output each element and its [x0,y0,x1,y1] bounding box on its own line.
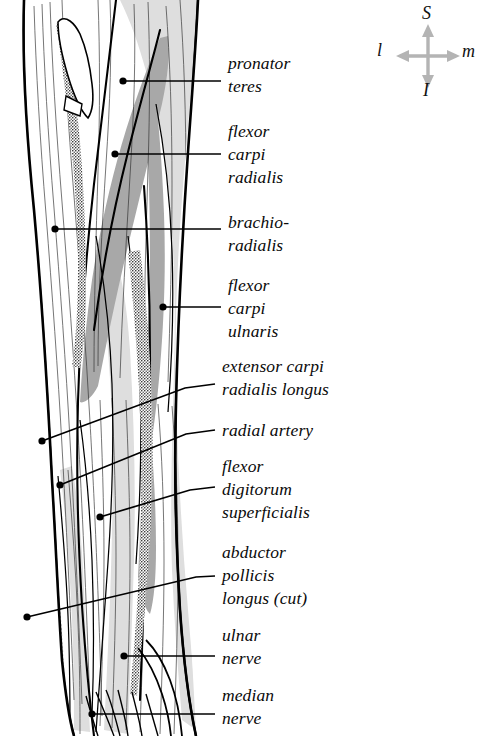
label-abductor-pollicis-longus: abductorpollicislongus (cut) [222,541,307,610]
compass-label-medial: m [462,41,475,62]
label-line: nerve [222,707,274,730]
label-line: radialis [228,234,289,257]
label-line: flexor [228,274,278,297]
label-line: nerve [222,647,261,670]
label-line: carpi [228,143,283,166]
leader-dot-brachioradialis [51,225,58,232]
label-line: pronator [228,52,290,75]
label-line: abductor [222,541,307,564]
leader-dot-radial-artery [56,481,63,488]
label-pronator-teres: pronatorteres [228,52,290,98]
label-line: ulnaris [228,320,278,343]
label-flexor-carpi-radialis: flexorcarpiradialis [228,120,283,189]
label-line: longus (cut) [222,587,307,610]
label-line: ulnar [222,624,261,647]
label-line: digitorum [222,478,310,501]
label-line: brachio- [228,211,289,234]
leader-dot-pronator-teres [119,77,126,84]
compass-label-lateral: l [377,40,382,61]
label-ulnar-nerve: ulnarnerve [222,624,261,670]
label-line: radial artery [222,419,313,442]
leader-dot-flexor-carpi-ulnaris [159,303,166,310]
label-flexor-carpi-ulnaris: flexorcarpiulnaris [228,274,278,343]
leader-dot-flexor-digitorum-superficialis [96,513,103,520]
label-brachioradialis: brachio-radialis [228,211,289,257]
leader-dot-flexor-carpi-radialis [111,150,118,157]
label-line: flexor [222,455,310,478]
label-extensor-carpi-radialis-longus: extensor carpiradialis longus [222,355,329,401]
compass-label-inferior: I [423,80,429,101]
label-line: radialis longus [222,378,329,401]
anatomy-plate: S I l m pronatorteresflexorcarpiradialis… [0,0,483,736]
label-line: flexor [228,120,283,143]
label-line: pollicis [222,564,307,587]
orientation-compass: S I l m [376,4,480,108]
cut-muscle-radius-region [8,558,54,698]
leader-dot-extensor-carpi-radialis-longus [38,437,45,444]
leader-dot-abductor-pollicis-longus [23,613,30,620]
leader-dot-ulnar-nerve [120,652,127,659]
label-line: teres [228,75,290,98]
label-line: superficialis [222,501,310,524]
label-median-nerve: mediannerve [222,684,274,730]
compass-label-superior: S [422,3,431,24]
label-line: extensor carpi [222,355,329,378]
label-line: radialis [228,166,283,189]
label-flexor-digitorum-superficialis: flexordigitorumsuperficialis [222,455,310,524]
leader-dot-median-nerve [88,710,95,717]
label-radial-artery: radial artery [222,419,313,442]
label-line: carpi [228,297,278,320]
label-line: median [222,684,274,707]
